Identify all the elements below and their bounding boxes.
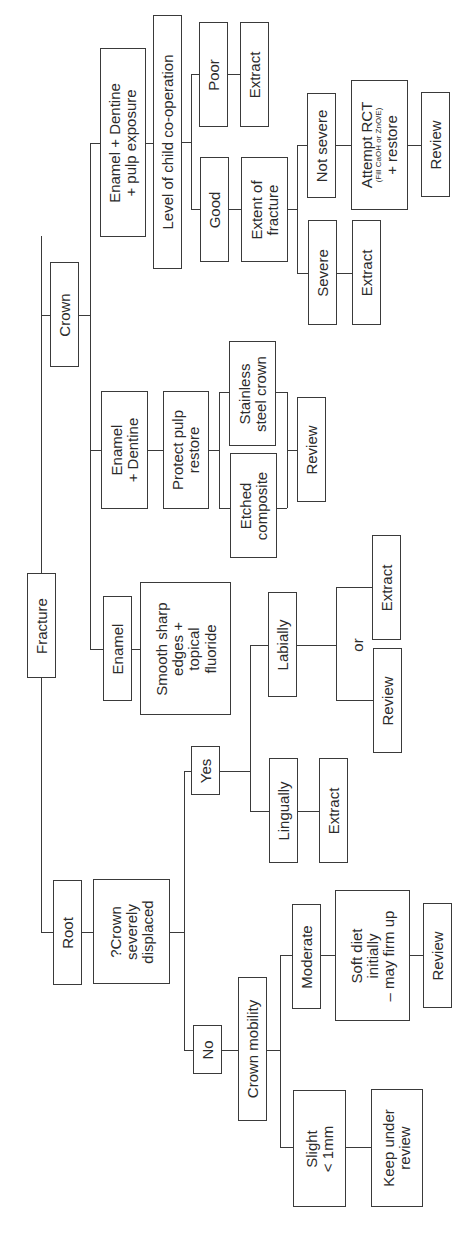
connector [336,273,352,274]
node-label: Slight < 1mm [303,1125,335,1171]
connector [184,771,191,772]
connector [41,315,50,316]
node-label: ?Crown severely displaced [107,900,156,963]
connector [287,450,297,451]
connector [297,811,319,812]
node-good: Good [200,157,229,262]
node-label: Poor [205,59,221,91]
node-not-severe: Not severe [307,93,336,198]
connector [145,143,153,144]
connector [280,1147,293,1148]
node-label: Labially [274,619,290,670]
node-label: Extent of fracture [248,180,280,239]
connector [191,209,200,210]
node-label: Keep under review [381,1109,413,1187]
node-lingually: Lingually [269,758,298,863]
connector [277,508,287,509]
connector [250,811,269,812]
connector [296,645,336,646]
node-severe: Severe [308,220,337,325]
node-smooth-edges: Smooth sharp edges + topical fluoride [140,582,231,715]
connector [276,392,287,393]
connector [219,392,220,508]
connector [90,143,100,144]
node-crown-displaced: ?Crown severely displaced [93,879,170,984]
connector [148,450,163,451]
node-label: Severe [314,249,330,297]
node-label: Level of child co-operation [159,54,175,229]
connector [170,932,184,933]
node-fracture: Fracture [27,573,56,678]
node-label: Good [206,191,222,228]
node-slight: Slight < 1mm [293,1090,346,1207]
connector [250,645,251,811]
connector [297,145,298,273]
node-lingually-extract: Extract [319,758,348,863]
connector [297,145,307,146]
node-ed-review: Review [297,397,326,502]
connector [182,142,191,143]
connector [184,771,185,1050]
node-label: Crown mobility [244,1000,260,1098]
node-label: Moderate [298,925,314,988]
node-label: No [199,1040,215,1059]
node-keep-under-review: Keep under review [371,1089,423,1207]
node-label: Not severe [313,109,329,182]
node-label: Enamel [109,623,125,674]
node-labially: Labially [268,592,297,697]
node-stainless-crown: Stainless steel crown [229,341,276,446]
node-no: No [193,1025,222,1074]
rct-title: Attempt RCT [359,80,375,210]
node-label: Crown [56,293,72,336]
connector [41,932,53,933]
node-label: Review [303,425,319,474]
node-moderate-review: Review [423,903,452,1008]
node-label: Stainless steel crown [236,356,268,432]
node-label: Fracture [33,598,49,654]
node-moderate: Moderate [292,904,321,1009]
node-label: Review [429,931,445,980]
node-enamel-dentine-pulp: Enamel + Dentine + pulp exposure [100,48,146,237]
connector [184,1050,193,1051]
node-label: Extract [325,787,341,834]
connector [191,74,199,75]
connector [280,955,281,1147]
rct-restore: + restore [384,80,400,210]
node-label: Review [427,120,443,169]
node-label: Enamel + Dentine + pulp exposure [107,83,139,203]
connector [227,74,240,75]
node-label: Etched composite [237,471,269,539]
connector [131,649,140,650]
connector [228,209,241,210]
node-enamel: Enamel [103,596,132,701]
node-label: Protect pulp restore [170,410,202,490]
connector [336,587,337,700]
node-enamel-dentine: Enamel + Dentine [101,391,148,509]
node-poor: Poor [199,22,228,127]
node-label: Review [379,676,395,725]
connector [209,450,219,451]
node-extent: Extent of fracture [241,157,288,262]
node-root: Root [53,880,82,985]
node-label: Lingually [275,781,291,840]
node-protect-pulp: Protect pulp restore [163,391,209,509]
node-label: Root [59,917,75,949]
node-label: Extract [358,249,374,296]
connector [267,1050,280,1051]
connector [78,315,90,316]
connector [346,1147,371,1148]
node-rct-review: Review [421,92,450,197]
node-label: Attempt RCT (Fill CaOH or ZnO/E) + resto… [359,80,400,210]
node-label: Extract [246,51,262,98]
node-label: Enamel + Dentine [108,418,140,483]
connector [41,236,42,573]
connector [336,145,351,146]
node-crown-mobility: Crown mobility [238,977,267,1121]
connector [219,508,230,509]
connector [288,209,297,210]
connector [41,678,42,932]
connector [191,74,192,210]
node-label: Yes [197,758,213,782]
node-labially-extract: Extract [372,535,401,640]
connector [408,145,421,146]
